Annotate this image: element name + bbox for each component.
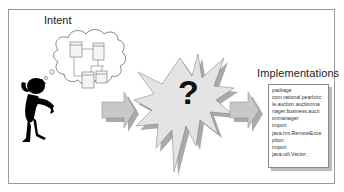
question-mark: ? xyxy=(178,73,199,112)
code-line: java.rmi.RemoteExce xyxy=(272,130,326,137)
implementations-label: Implementations xyxy=(257,67,339,79)
code-snippet-document: package com.rational.pearlcirc le.auctio… xyxy=(268,84,329,168)
code-line: nager.business.aucti xyxy=(272,108,326,115)
right-arrow-icon-2 xyxy=(230,92,263,132)
code-line: java.util.Vector; xyxy=(272,151,326,158)
code-line: import xyxy=(272,122,326,129)
right-arrow-icon xyxy=(102,92,139,132)
code-line: le.auction.auctionma xyxy=(272,101,326,108)
code-line: package xyxy=(272,87,326,94)
thinking-person-icon xyxy=(21,78,54,142)
code-line: import xyxy=(272,144,326,151)
code-line: onmanager; xyxy=(272,115,326,122)
code-line: ption; xyxy=(272,137,326,144)
intent-label: Intent xyxy=(44,14,72,26)
code-line: com.rational.pearlcirc xyxy=(272,94,326,101)
